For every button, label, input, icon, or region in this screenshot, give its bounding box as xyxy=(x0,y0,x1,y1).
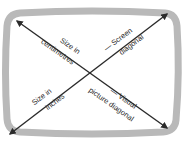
screen-diagonal-diagram: Size in centimetres — Screen diagonal Si… xyxy=(0,0,185,144)
screen-frame xyxy=(6,11,179,134)
